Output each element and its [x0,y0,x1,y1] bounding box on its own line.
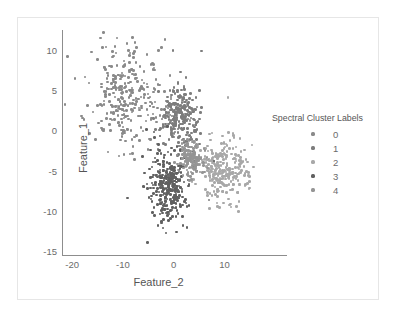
scatter-point [181,190,184,193]
scatter-point [130,108,133,111]
scatter-point [188,183,191,186]
scatter-point [129,94,132,97]
scatter-point [197,120,200,123]
scatter-point [157,90,160,93]
scatter-point [226,162,229,165]
scatter-point [248,187,251,190]
scatter-point [124,115,127,118]
scatter-point [129,103,132,106]
scatter-point [206,194,209,197]
scatter-point [193,119,196,122]
scatter-point [155,116,158,119]
scatter-point [146,108,149,111]
scatter-point [243,165,246,168]
scatter-point [188,204,191,207]
scatter-point [164,200,167,203]
scatter-point [248,175,251,178]
scatter-point [146,83,149,86]
y-axis-ticks: 1050-5-10-15 [24,30,57,255]
scatter-point [160,46,163,49]
legend-title: Spectral Cluster Labels [272,113,380,123]
scatter-point [131,36,134,39]
scatter-point [216,205,219,208]
scatter-point [230,153,233,156]
scatter-point [195,157,198,160]
scatter-point [228,183,231,186]
scatter-point [170,190,173,193]
scatter-point [106,77,109,80]
scatter-point [240,169,243,172]
legend-item[interactable]: 3 [272,169,380,183]
scatter-point [153,214,156,217]
scatter-point [152,106,155,109]
scatter-point [206,191,209,194]
scatter-point [152,63,155,66]
scatter-point [195,163,198,166]
scatter-point [179,71,182,74]
scatter-point [155,121,158,124]
y-tick-label: 0 [52,125,57,136]
scatter-point [232,183,235,186]
scatter-point [139,65,142,68]
scatter-point [170,131,173,134]
scatter-point [208,174,211,177]
scatter-point [166,214,169,217]
scatter-point [165,174,168,177]
scatter-point [221,135,224,138]
scatter-point [183,139,186,142]
scatter-point [183,181,186,184]
legend-item[interactable]: 4 [272,183,380,197]
y-axis-spine [62,30,63,256]
scatter-point [163,90,166,93]
scatter-point [176,209,179,212]
scatter-point [128,89,131,92]
scatter-point [128,61,131,64]
scatter-point [183,88,186,91]
scatter-point [166,168,169,171]
y-tick-label: -15 [43,245,57,256]
scatter-point [238,184,241,187]
scatter-point [115,52,118,55]
scatter-point [238,200,241,203]
scatter-point [96,104,99,107]
legend-item[interactable]: 0 [272,127,380,141]
scatter-point [158,129,161,132]
scatter-point [108,123,111,126]
scatter-point [207,150,210,153]
y-tick-label: -5 [49,165,57,176]
x-tick-label: 10 [219,259,230,270]
scatter-point [246,161,249,164]
scatter-point [199,111,202,114]
legend-item[interactable]: 2 [272,155,380,169]
scatter-point [146,241,149,244]
scatter-point [116,37,119,40]
scatter-point [92,111,95,114]
legend-marker-icon [302,188,324,191]
legend-item-label: 3 [333,171,338,182]
scatter-point [164,114,167,117]
scatter-point [106,112,109,115]
scatter-point [156,203,159,206]
scatter-point [159,135,162,138]
scatter-point [161,190,164,193]
scatter-point [199,132,202,135]
scatter-point [126,42,129,45]
scatter-point [111,50,114,53]
scatter-point [103,90,106,93]
scatter-point [157,143,160,146]
scatter-point [232,134,235,137]
scatter-point [109,129,112,132]
scatter-point [117,121,120,124]
scatter-point [158,199,161,202]
scatter-point [108,100,111,103]
legend-item[interactable]: 1 [272,141,380,155]
figure: Feature_1 1050-5-10-15 -20-10010 Feature… [0,0,397,320]
scatter-point [144,102,147,105]
scatter-point [222,202,225,205]
scatter-point [221,190,224,193]
scatter-point [186,127,189,130]
scatter-point [134,41,137,44]
legend-item-label: 4 [333,185,338,196]
scatter-point [209,139,212,142]
scatter-point [208,199,211,202]
